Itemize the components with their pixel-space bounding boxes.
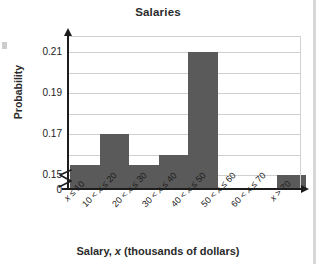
gridline-0-21 xyxy=(68,52,300,53)
gridline-top xyxy=(68,36,300,37)
gridline-0-18 xyxy=(68,114,300,115)
histogram-figure: Salaries Probability 0.21 0.19 0.17 0.15… xyxy=(0,0,316,264)
bar-40-to-50 xyxy=(188,52,218,188)
gridline-0-19 xyxy=(68,93,300,94)
ytick-label-0-17: 0.17 xyxy=(28,128,62,139)
gridline-0-20 xyxy=(68,73,300,74)
page-edge-shadow xyxy=(313,0,316,264)
plot-area xyxy=(68,36,300,188)
chart-title: Salaries xyxy=(0,6,316,18)
scan-artifact xyxy=(2,42,7,49)
y-axis-line xyxy=(67,34,69,188)
x-axis-arrowhead xyxy=(301,185,309,193)
ytick-label-0: 0 xyxy=(28,184,62,195)
plot-right-border xyxy=(300,36,301,188)
ytick-label-0-19: 0.19 xyxy=(28,87,62,98)
y-axis-title: Probability xyxy=(12,52,24,132)
ytick-label-0-21: 0.21 xyxy=(28,46,62,57)
ytick-label-0-15: 0.15 xyxy=(28,169,62,180)
x-axis-title: Salary, x (thousands of dollars) xyxy=(0,245,316,257)
y-axis-arrowhead xyxy=(64,28,72,36)
